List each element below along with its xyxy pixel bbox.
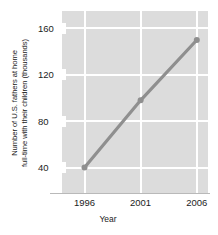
data-series-line bbox=[62, 11, 208, 193]
y-tick-label-80: 80 bbox=[38, 116, 66, 127]
y-axis-title-text: Number of U.S. fathers at home full-time… bbox=[10, 39, 30, 167]
y-axis-ticks: 160 120 80 40 bbox=[36, 0, 66, 205]
data-point-2001 bbox=[138, 97, 144, 103]
chart-figure: Number of U.S. fathers at home full-time… bbox=[0, 0, 218, 235]
x-tick-label-2001: 2001 bbox=[121, 197, 161, 209]
x-axis-title-text: Year bbox=[99, 214, 116, 224]
y-tick-label-120: 120 bbox=[38, 69, 66, 80]
data-point-2006 bbox=[194, 37, 200, 43]
series-polyline bbox=[85, 40, 197, 168]
y-axis-title: Number of U.S. fathers at home full-time… bbox=[0, 0, 40, 205]
y-tick-label-40: 40 bbox=[38, 162, 66, 173]
x-axis-title: Year bbox=[0, 214, 218, 224]
y-axis-title-line-1: Number of U.S. fathers at home bbox=[10, 39, 20, 167]
y-axis-title-line-2: full-time with their children (thousands… bbox=[20, 39, 30, 167]
data-point-1996 bbox=[82, 165, 88, 171]
y-tick-label-160: 160 bbox=[38, 23, 66, 34]
x-tick-label-2006: 2006 bbox=[177, 197, 217, 209]
x-axis-line bbox=[50, 193, 210, 194]
plot-area bbox=[62, 11, 208, 193]
x-tick-label-1996: 1996 bbox=[65, 197, 105, 209]
